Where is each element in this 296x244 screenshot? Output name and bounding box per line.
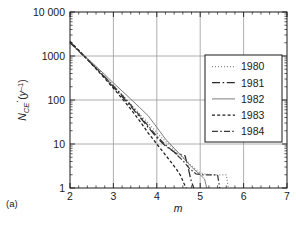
x-tick-label: 5 — [197, 190, 203, 202]
y-tick-label: 100 — [47, 94, 65, 106]
x-tick-label: 2 — [67, 190, 73, 202]
x-tick-label: 7 — [284, 190, 290, 202]
figure-panel-a: 234567 110100100010 000 m NCE (y–1) . 19… — [0, 0, 296, 244]
legend-label-1984: 1984 — [241, 125, 265, 137]
x-axis-title: m — [174, 202, 183, 214]
y-tick-label: 1000 — [42, 50, 66, 62]
y-tick-label: 10 000 — [33, 6, 65, 18]
svg-text:m: m — [174, 202, 183, 214]
n-dot-accent: . — [9, 100, 20, 103]
y-tick-label: 10 — [53, 138, 65, 150]
legend-label-1981: 1981 — [241, 77, 265, 89]
x-tick-label: 4 — [154, 190, 160, 202]
y-tick-label: 1 — [59, 182, 65, 194]
x-tick-label: 6 — [241, 190, 247, 202]
legend: 19801981198219831984 — [205, 55, 282, 142]
legend-label-1983: 1983 — [241, 109, 265, 121]
legend-label-1980: 1980 — [241, 60, 265, 72]
legend-label-1982: 1982 — [241, 93, 265, 105]
x-tick-label: 3 — [110, 190, 116, 202]
chart-canvas: 234567 110100100010 000 m NCE (y–1) . 19… — [0, 0, 296, 244]
panel-label: (a) — [6, 198, 18, 209]
